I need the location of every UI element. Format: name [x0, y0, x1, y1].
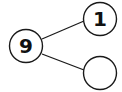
whole-value: 9: [19, 34, 33, 58]
connector-line-top: [42, 21, 84, 39]
part-value-top: 1: [93, 7, 107, 31]
number-bond-svg: 9 1: [0, 0, 122, 92]
part-node-bottom[interactable]: [84, 57, 117, 90]
part-circle-bottom[interactable]: [84, 57, 117, 90]
whole-node: 9: [10, 30, 43, 63]
number-bond-diagram: 9 1: [0, 0, 122, 92]
connector-line-bottom: [42, 54, 84, 70]
part-node-top: 1: [84, 3, 117, 36]
